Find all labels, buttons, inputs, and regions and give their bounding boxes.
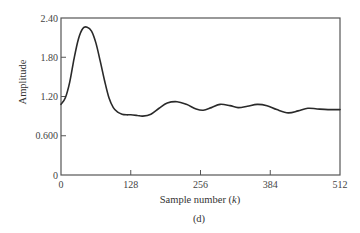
x-tick-label: 128 xyxy=(123,179,138,190)
x-tick-label: 256 xyxy=(193,179,208,190)
y-tick-label: 0 xyxy=(53,170,58,181)
y-tick-label: 1.20 xyxy=(41,91,59,102)
x-tick-label: 384 xyxy=(263,179,278,190)
plot-frame xyxy=(61,18,340,175)
y-axis-label: Amplitude xyxy=(17,59,28,104)
x-tick-label: 0 xyxy=(59,179,64,190)
chart: 00.6001.201.802.40 0128256384512 Amplitu… xyxy=(0,0,360,233)
y-tick-label: 2.40 xyxy=(41,13,59,24)
x-axis-label: Sample number (k) xyxy=(160,194,241,206)
x-axis-ticks: 0128256384512 xyxy=(59,170,348,190)
x-tick-label: 512 xyxy=(333,179,348,190)
amplitude-line xyxy=(61,27,340,116)
plot-area-border xyxy=(61,18,340,175)
y-tick-label: 1.80 xyxy=(41,52,59,63)
y-tick-label: 0.600 xyxy=(36,130,59,141)
figure-caption: (d) xyxy=(193,213,206,225)
x-axis-label-text: Sample number xyxy=(160,194,227,205)
